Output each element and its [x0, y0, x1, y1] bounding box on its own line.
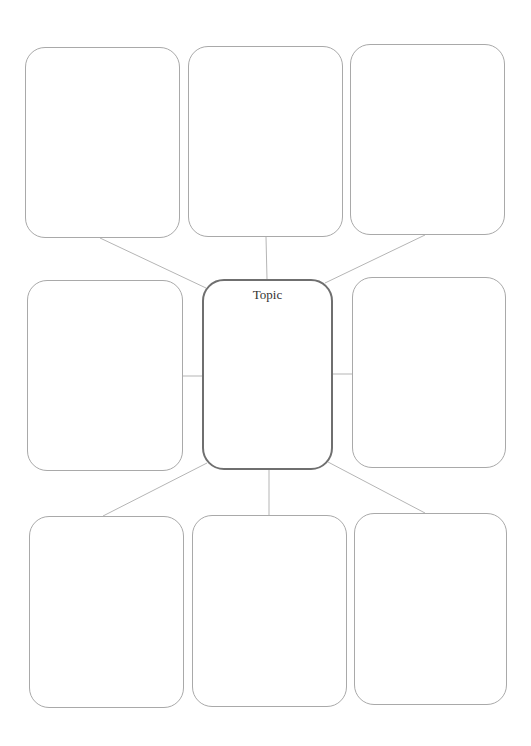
center-topic-node[interactable]: Topic	[202, 279, 333, 470]
node-bottom-right[interactable]	[354, 513, 507, 705]
node-top-left[interactable]	[25, 47, 180, 238]
node-middle-left[interactable]	[27, 280, 183, 471]
connector-line-top-right	[325, 235, 425, 283]
node-top-right[interactable]	[350, 44, 505, 235]
node-top-middle[interactable]	[188, 46, 343, 237]
node-bottom-left[interactable]	[29, 516, 184, 708]
topic-label: Topic	[204, 287, 331, 303]
connector-line-top-middle	[266, 237, 267, 279]
node-middle-right[interactable]	[352, 277, 506, 468]
connector-line-bottom-right	[328, 462, 425, 513]
node-bottom-middle[interactable]	[192, 515, 347, 707]
spider-map-canvas: Topic	[0, 0, 531, 746]
